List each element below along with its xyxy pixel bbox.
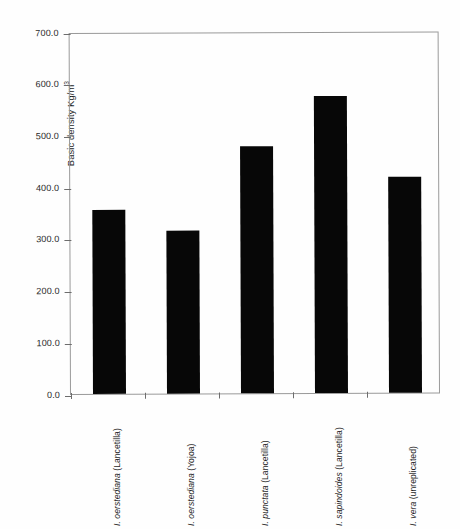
x-tick-mark [367, 392, 368, 398]
x-axis-labels: I. oerstediana (Lancetilla)I. oerstedian… [70, 398, 440, 529]
x-axis-label: I. punctata (Lancetilla) [260, 396, 270, 526]
y-tick-mark [65, 292, 72, 293]
x-axis-label: I. oerstediana (Lancetilla) [112, 396, 122, 526]
y-tick-mark [65, 344, 72, 345]
y-tick-label: 700.0 [35, 28, 58, 38]
y-tick-mark [64, 189, 71, 190]
y-tick-label: 600.0 [36, 79, 59, 89]
bar-series [70, 33, 438, 34]
y-tick-label: 100.0 [37, 338, 60, 348]
y-tick-label: 400.0 [36, 183, 59, 193]
plot-area: 700.0600.0500.0400.0300.0200.0100.00.0 [69, 32, 440, 395]
y-axis-ticks: 700.0600.0500.0400.0300.0200.0100.00.0 [70, 33, 438, 34]
y-tick-mark [64, 33, 71, 34]
y-tick-label: 0.0 [47, 390, 60, 400]
y-tick-mark [64, 240, 71, 241]
x-axis-label: I. oerstediana (Yojoa) [186, 396, 196, 526]
bar [166, 231, 200, 394]
y-tick-mark [64, 137, 71, 138]
y-tick-label: 200.0 [36, 286, 59, 296]
bar [92, 210, 126, 394]
x-axis-label: I. sapindoides (Lancetilla) [334, 396, 344, 526]
y-tick-label: 500.0 [36, 131, 59, 141]
chart-page: Basic density Kg/m3 700.0600.0500.0400.0… [0, 0, 460, 529]
x-axis-ticks [70, 33, 438, 34]
bar [314, 96, 348, 393]
bar [240, 146, 274, 393]
x-axis-label: I. vera (unreplicated) [408, 396, 418, 526]
y-tick-label: 300.0 [36, 234, 59, 244]
bar [388, 176, 422, 392]
y-tick-mark [64, 85, 71, 86]
